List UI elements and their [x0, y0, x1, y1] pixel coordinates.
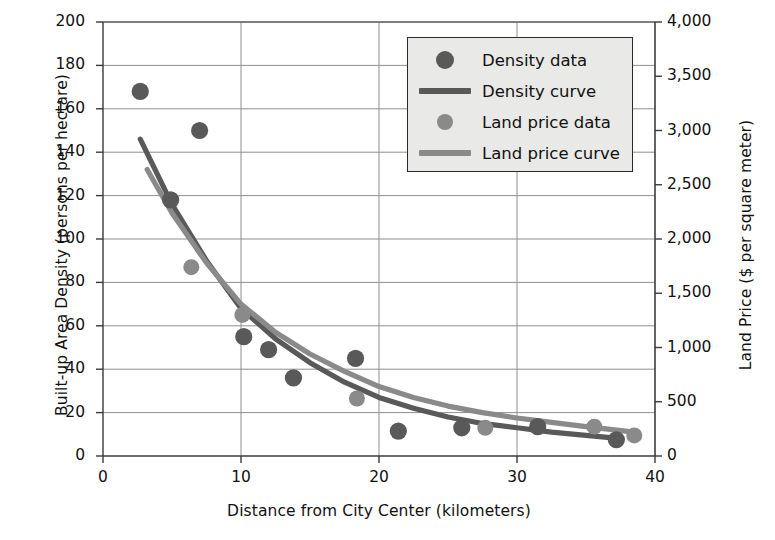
- curve-layer: [140, 139, 634, 438]
- point-density-data: [235, 328, 252, 345]
- point-density-data: [260, 341, 277, 358]
- y-axis-left-title: Built-up Area Density (persons per hecta…: [53, 35, 71, 455]
- y-tick-label-right: 3,000: [667, 121, 737, 139]
- y-tick-label-left: 200: [25, 12, 85, 30]
- point-density-data: [608, 431, 625, 448]
- chart-legend: Density dataDensity curveLand price data…: [407, 37, 633, 172]
- x-tick-label: 20: [349, 468, 409, 486]
- y-tick-label-right: 1,500: [667, 283, 737, 301]
- legend-dot-icon: [436, 51, 454, 69]
- y-axis-right-title: Land Price ($ per square meter): [737, 35, 755, 455]
- x-tick-label: 40: [625, 468, 685, 486]
- point-density-data: [453, 419, 470, 436]
- y-tick-label-right: 0: [667, 446, 737, 464]
- scatter-chart: 02040608010012014016018020005001,0001,50…: [0, 0, 775, 540]
- legend-label: Land price data: [482, 113, 611, 132]
- y-tick-label-right: 2,000: [667, 229, 737, 247]
- point-land-price-data: [349, 391, 365, 407]
- curve-density-curve: [140, 139, 620, 438]
- point-land-price-data: [477, 420, 493, 436]
- point-density-data: [529, 418, 546, 435]
- legend-marker-dot: [408, 114, 482, 130]
- legend-item: Land price curve: [408, 138, 634, 168]
- y-tick-label-right: 4,000: [667, 12, 737, 30]
- y-tick-label-right: 3,500: [667, 66, 737, 84]
- x-tick-label: 10: [211, 468, 271, 486]
- legend-item: Density curve: [408, 76, 634, 106]
- legend-dot-icon: [437, 114, 453, 130]
- legend-label: Density curve: [482, 82, 596, 101]
- legend-label: Density data: [482, 51, 587, 70]
- y-tick-label-right: 2,500: [667, 175, 737, 193]
- legend-marker-line: [408, 150, 482, 156]
- legend-line-icon: [419, 88, 471, 94]
- legend-marker-line: [408, 88, 482, 94]
- legend-item: Density data: [408, 45, 634, 75]
- curve-land-price-curve: [147, 170, 634, 433]
- y-tick-label-right: 500: [667, 392, 737, 410]
- x-tick-label: 0: [73, 468, 133, 486]
- point-density-data: [162, 191, 179, 208]
- point-density-data: [191, 122, 208, 139]
- legend-line-icon: [419, 150, 471, 156]
- point-land-price-data: [626, 427, 642, 443]
- point-density-data: [347, 350, 364, 367]
- x-axis-title: Distance from City Center (kilometers): [103, 502, 655, 520]
- legend-item: Land price data: [408, 107, 634, 137]
- x-tick-label: 30: [487, 468, 547, 486]
- point-density-data: [390, 422, 407, 439]
- point-land-price-data: [183, 259, 199, 275]
- y-tick-label-right: 1,000: [667, 338, 737, 356]
- legend-label: Land price curve: [482, 144, 620, 163]
- point-density-data: [285, 369, 302, 386]
- legend-marker-dot: [408, 51, 482, 69]
- point-land-price-data: [234, 307, 250, 323]
- point-land-price-data: [586, 419, 602, 435]
- plot-area: [0, 0, 775, 540]
- point-density-data: [132, 83, 149, 100]
